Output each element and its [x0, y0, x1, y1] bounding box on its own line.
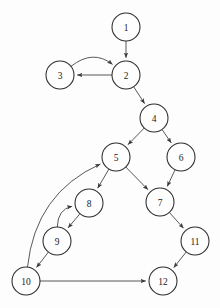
- edge-11-to-12: [174, 252, 187, 268]
- edge-7-to-11: [169, 212, 183, 228]
- graph-node-4[interactable]: 4: [140, 104, 168, 132]
- node-label-5: 5: [114, 153, 119, 163]
- graph-node-11[interactable]: 11: [181, 227, 209, 255]
- graph-node-5[interactable]: 5: [102, 143, 130, 171]
- graph-node-10[interactable]: 10: [12, 267, 40, 295]
- node-label-1: 1: [124, 23, 129, 33]
- graph-node-8[interactable]: 8: [75, 189, 103, 217]
- graph-node-7[interactable]: 7: [146, 188, 174, 216]
- edge-2-to-4: [134, 87, 145, 104]
- edge-4-to-5: [128, 128, 144, 145]
- edge-6-to-7: [167, 170, 175, 187]
- edge-5-to-7: [126, 167, 148, 190]
- node-label-10: 10: [21, 277, 31, 287]
- graph-node-1[interactable]: 1: [112, 13, 140, 41]
- node-label-8: 8: [87, 199, 92, 209]
- edge-5-to-8: [98, 169, 109, 188]
- edge-4-to-6: [162, 130, 171, 143]
- nodes-layer: 123456789101112: [12, 13, 209, 295]
- node-label-11: 11: [190, 237, 199, 247]
- edge-9-to-8: [57, 206, 72, 227]
- graph-node-12[interactable]: 12: [149, 267, 177, 295]
- graph-node-2[interactable]: 2: [112, 61, 140, 89]
- node-label-4: 4: [152, 114, 157, 124]
- node-label-2: 2: [124, 71, 129, 81]
- graph-node-6[interactable]: 6: [167, 143, 195, 171]
- graph-canvas: 123456789101112: [0, 0, 220, 308]
- node-label-7: 7: [158, 198, 163, 208]
- node-label-6: 6: [179, 153, 184, 163]
- node-label-12: 12: [158, 277, 168, 287]
- node-label-3: 3: [58, 71, 63, 81]
- node-label-9: 9: [55, 237, 60, 247]
- graph-node-9[interactable]: 9: [43, 227, 71, 255]
- edge-8-to-9: [68, 214, 80, 228]
- edge-3-to-2: [71, 57, 112, 66]
- edge-9-to-10: [37, 252, 49, 267]
- graph-node-3[interactable]: 3: [46, 61, 74, 89]
- graph-diagram: 123456789101112: [0, 0, 220, 308]
